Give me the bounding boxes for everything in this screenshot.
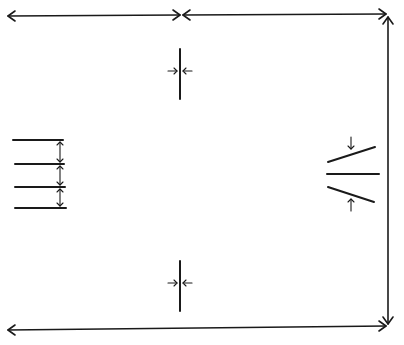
- bottom-dimension-arrow: [8, 321, 386, 335]
- top-left-dimension-arrow: [8, 10, 180, 21]
- left-parallel-lines: [13, 140, 66, 208]
- right-wedge-lines: [327, 147, 379, 202]
- top-right-dimension-arrow: [183, 9, 386, 20]
- diagram-canvas: [0, 0, 404, 345]
- top-center-gap-indicator: [168, 49, 192, 99]
- right-vertical-dimension-arrow: [383, 17, 393, 324]
- left-spacing-arrows: [57, 142, 63, 206]
- bottom-center-gap-indicator: [168, 261, 192, 311]
